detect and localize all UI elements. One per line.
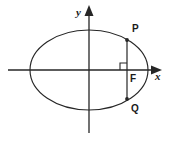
y-axis-arrow-icon xyxy=(85,5,94,16)
geometry-canvas: y x P F Q xyxy=(0,0,170,141)
point-p-label: P xyxy=(132,23,139,34)
x-axis-label: x xyxy=(154,70,161,82)
point-f-label: F xyxy=(130,73,136,84)
ellipse-figure: y x P F Q xyxy=(0,0,170,141)
point-p-dot xyxy=(125,38,129,42)
y-axis-label: y xyxy=(74,6,81,18)
point-q-label: Q xyxy=(131,103,139,114)
point-q-dot xyxy=(125,97,129,101)
right-angle-marker-icon xyxy=(120,63,127,70)
